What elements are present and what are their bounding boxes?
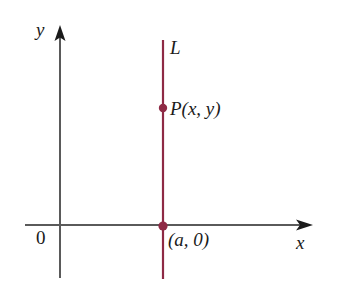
point-intercept-marker xyxy=(158,221,167,230)
point-P-label: P(x, y) xyxy=(170,99,221,118)
diagram-svg xyxy=(0,0,338,295)
figure-canvas: y x L P(x, y) (a, 0) 0 xyxy=(0,0,338,295)
origin-label: 0 xyxy=(36,228,46,247)
point-intercept-label: (a, 0) xyxy=(168,230,209,249)
point-P-marker xyxy=(159,104,167,112)
y-axis-label: y xyxy=(36,20,44,39)
line-L-label: L xyxy=(170,38,181,57)
x-axis-label: x xyxy=(296,233,304,252)
